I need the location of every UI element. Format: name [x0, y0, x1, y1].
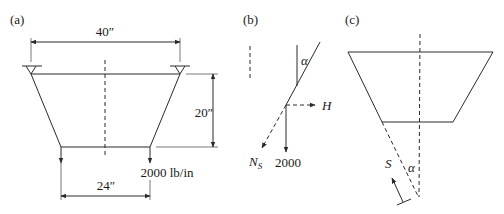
- load-2000-label: 2000: [275, 155, 301, 170]
- panel-b-label: (b): [243, 12, 258, 27]
- dimension-top-width: 40″: [31, 24, 180, 62]
- member-line: [286, 42, 320, 105]
- figure-canvas: (a) 40″ 20: [0, 0, 504, 214]
- force-ns-arrow-icon: [262, 105, 286, 148]
- height-label: 20″: [195, 105, 213, 120]
- angle-alpha-c: α: [408, 160, 416, 175]
- force-s-arrow-icon: [392, 178, 403, 202]
- force-s-label: S: [385, 156, 392, 171]
- panel-c: (c) α S: [345, 12, 493, 205]
- top-width-label: 40″: [96, 24, 114, 39]
- support-right-icon: [170, 66, 190, 74]
- support-left-icon: [22, 66, 42, 74]
- angle-alpha-b: α: [301, 53, 309, 68]
- panel-a: (a) 40″ 20: [10, 12, 218, 200]
- bottom-width-label: 24″: [97, 178, 115, 193]
- panel-a-label: (a): [10, 12, 24, 27]
- trapezoid-c: [348, 52, 493, 122]
- force-ns-label: NS: [248, 154, 263, 171]
- panel-b: (b) α H NS 2000: [243, 12, 332, 171]
- centerline-c: [419, 34, 420, 197]
- force-h-label: H: [321, 98, 332, 113]
- dimension-bottom-width: 24″: [61, 163, 150, 200]
- panel-c-label: (c): [345, 12, 359, 27]
- load-label: 2000 lb/in: [140, 165, 194, 180]
- force-s-tick: [397, 199, 411, 205]
